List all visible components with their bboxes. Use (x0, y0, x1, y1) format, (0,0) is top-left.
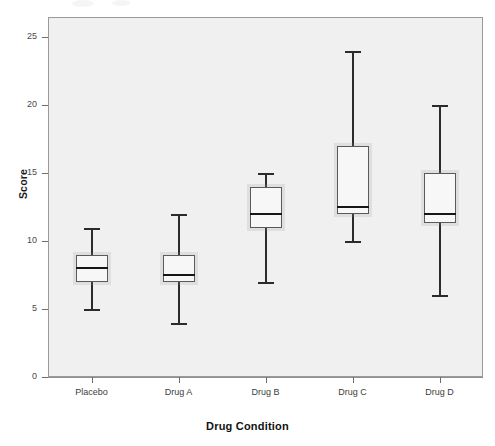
x-axis-tick-label-drug-d: Drug D (395, 387, 485, 397)
iqr-box (337, 146, 369, 214)
x-axis-tick (353, 377, 354, 383)
x-axis-tick-label-drug-c: Drug C (308, 387, 398, 397)
whisker-cap-upper (258, 173, 274, 175)
x-axis-title: Drug Condition (0, 420, 495, 432)
x-axis-tick (179, 377, 180, 383)
x-axis-tick-label-drug-a: Drug A (134, 387, 224, 397)
iqr-box (424, 173, 456, 223)
whisker-cap-lower (345, 241, 361, 243)
x-axis-tick (92, 377, 93, 383)
whisker-cap-upper (171, 214, 187, 216)
median-line (163, 274, 195, 276)
x-axis-tick (266, 377, 267, 383)
y-axis-tick-label: 15 (0, 168, 37, 177)
y-axis-tick (42, 309, 48, 310)
x-axis-tick (440, 377, 441, 383)
scan-artifact (72, 0, 94, 7)
y-axis-tick-label: 20 (0, 100, 37, 109)
whisker-cap-lower (171, 323, 187, 325)
whisker-cap-lower (258, 282, 274, 284)
whisker-cap-lower (84, 309, 100, 311)
y-axis-tick (42, 37, 48, 38)
whisker-cap-lower (432, 295, 448, 297)
whisker-cap-upper (84, 228, 100, 230)
y-axis-tick-label: 5 (0, 304, 37, 313)
median-line (337, 206, 369, 208)
median-line (250, 213, 282, 215)
scan-artifact (112, 0, 130, 6)
whisker-cap-upper (345, 51, 361, 53)
x-axis-tick-label-placebo: Placebo (47, 387, 137, 397)
boxplot-chart: Score 0510152025 PlaceboDrug ADrug BDrug… (0, 0, 495, 446)
y-axis-tick-label: 10 (0, 236, 37, 245)
y-axis-tick (42, 241, 48, 242)
iqr-box (163, 255, 195, 282)
y-axis-title: Score (17, 154, 29, 214)
y-axis-tick-label: 0 (0, 372, 37, 381)
y-axis-tick (42, 105, 48, 106)
x-axis-tick-label-drug-b: Drug B (221, 387, 311, 397)
median-line (76, 267, 108, 269)
iqr-box (250, 187, 282, 228)
whisker-cap-upper (432, 105, 448, 107)
y-axis-tick-label: 25 (0, 32, 37, 41)
y-axis-tick (42, 173, 48, 174)
median-line (424, 213, 456, 215)
